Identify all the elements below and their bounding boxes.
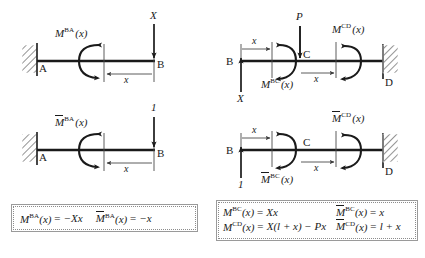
label-moment-cd: MCD(x) — [332, 22, 365, 35]
moment-bc-superscript-2: BC — [270, 172, 280, 180]
eq-argument: (x) — [355, 220, 367, 232]
moment-bc-argument-2: (x) — [281, 173, 293, 185]
label-support-d: D — [385, 76, 393, 88]
fixed-support-a-icon-2 — [22, 132, 37, 165]
moment-arc-cd-unit — [343, 135, 361, 168]
label-moment-bc: MBC(x) — [261, 77, 293, 90]
label-dimension-x-left: x — [252, 35, 256, 46]
eq-symbol: M — [223, 206, 232, 218]
fixed-support-d-icon-2 — [383, 133, 398, 168]
equation-cell: MCD(x)= X(l + x) − Px — [223, 220, 336, 233]
equation-cell: MBA(x)= −Xx — [20, 212, 83, 225]
eq-argument: (x) — [115, 212, 127, 224]
label-dimension-x-2: x — [124, 163, 128, 174]
label-end-b: B — [157, 58, 164, 70]
eq-rhs: = l + x — [370, 220, 401, 232]
eq-symbol-overbar: M — [96, 212, 105, 224]
moment-symbol: M — [55, 27, 64, 39]
figure-canvas: A B X x MBA(x) A B 1 x MBA(x) B C D X P … — [0, 0, 425, 258]
eq-rhs: = −x — [129, 212, 151, 224]
eq-superscript: BC — [232, 205, 242, 213]
moment-cd-argument-2: (x) — [352, 112, 364, 124]
eq-argument: (x) — [355, 206, 367, 218]
eq-argument: (x) — [39, 212, 51, 224]
label-dimension-x-left-2: x — [252, 124, 256, 135]
fixed-support-d-icon — [383, 44, 398, 79]
moment-cd-symbol-overbar: M — [332, 112, 341, 124]
eq-argument: (x) — [242, 220, 254, 232]
label-load-p: P — [296, 10, 303, 22]
eq-rhs: = −Xx — [54, 212, 83, 224]
eq-superscript: CD — [345, 220, 355, 228]
equation-box-right: MBC(x)= Xx MBC(x)= x MCD(x)= X(l + x) − … — [216, 200, 418, 241]
eq-argument: (x) — [242, 206, 254, 218]
label-moment-ba: MBA(x) — [55, 26, 88, 39]
label-support-a: A — [39, 62, 47, 74]
label-node-b-2: B — [226, 144, 233, 156]
moment-argument: (x) — [75, 27, 87, 39]
equation-row: MBC(x)= Xx MBC(x)= x — [223, 205, 417, 218]
eq-rhs: = X(l + x) − Px — [257, 220, 327, 232]
label-node-b: B — [226, 55, 233, 67]
moment-argument-2: (x) — [75, 116, 87, 128]
eq-superscript: CD — [232, 220, 242, 228]
moment-superscript-2: BA — [64, 115, 74, 123]
label-node-c-2: C — [303, 136, 310, 148]
eq-superscript: BA — [105, 212, 115, 220]
equation-cell: MBC(x)= x — [336, 205, 384, 218]
label-support-a-2: A — [39, 151, 47, 163]
label-dimension-x: x — [124, 74, 128, 85]
moment-superscript: BA — [64, 26, 74, 34]
label-load-x: X — [150, 9, 157, 21]
eq-symbol-overbar: M — [336, 220, 345, 232]
label-end-b-2: B — [157, 147, 164, 159]
eq-symbol: M — [223, 220, 232, 232]
label-moment-cd-bar: MCD(x) — [332, 111, 365, 124]
equation-cell: MCD(x)= l + x — [336, 220, 401, 233]
moment-cd-argument: (x) — [352, 23, 364, 35]
equation-row: MBA(x)= −Xx MBA(x)= −x — [12, 205, 197, 231]
label-support-d-2: D — [385, 165, 393, 177]
label-reaction-unit: 1 — [238, 178, 244, 190]
label-load-unit: 1 — [151, 101, 157, 113]
equation-box-left: MBA(x)= −Xx MBA(x)= −x — [11, 204, 198, 232]
eq-superscript: BA — [29, 212, 39, 220]
moment-arc-cd — [343, 46, 361, 79]
eq-rhs: = Xx — [256, 206, 278, 218]
moment-bc-superscript: BC — [270, 77, 280, 85]
label-moment-ba-bar: MBA(x) — [55, 115, 88, 128]
fixed-support-a-icon — [22, 43, 37, 76]
label-dimension-x-right: x — [314, 73, 318, 84]
eq-symbol: M — [20, 212, 29, 224]
moment-symbol-overbar: M — [55, 116, 64, 128]
label-moment-bc-bar: MBC(x) — [261, 172, 293, 185]
equation-row: MCD(x)= X(l + x) − Px MCD(x)= l + x — [223, 220, 417, 233]
eq-symbol-overbar: M — [336, 206, 345, 218]
eq-superscript: BC — [345, 205, 355, 213]
moment-cd-superscript: CD — [341, 22, 351, 30]
eq-rhs: = x — [369, 206, 384, 218]
moment-bc-symbol-overbar: M — [261, 173, 270, 185]
moment-bc-symbol: M — [261, 78, 270, 90]
equation-rows: MBC(x)= Xx MBC(x)= x MCD(x)= X(l + x) − … — [217, 201, 417, 232]
label-dimension-x-right-2: x — [314, 162, 318, 173]
equation-cell: MBC(x)= Xx — [223, 205, 336, 218]
label-node-c: C — [303, 48, 310, 60]
moment-cd-symbol: M — [332, 23, 341, 35]
moment-cd-superscript-2: CD — [341, 111, 351, 119]
moment-bc-argument: (x) — [281, 78, 293, 90]
equation-cell: MBA(x)= −x — [96, 212, 152, 225]
label-reaction-x: X — [237, 92, 244, 104]
